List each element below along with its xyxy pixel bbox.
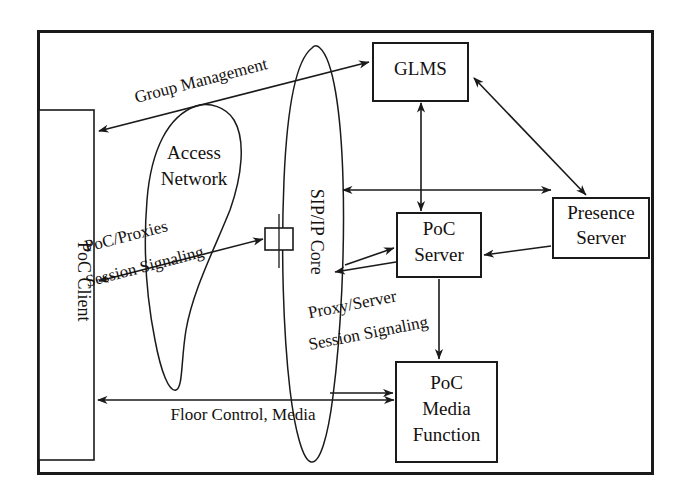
- proxy-poc-server-return-arrow: [335, 262, 396, 272]
- poc-media-function-box[interactable]: [396, 362, 497, 462]
- access-network-ellipse[interactable]: [145, 105, 241, 390]
- poc-server-box[interactable]: [397, 213, 481, 277]
- glms-presence-arrow: [474, 78, 586, 195]
- diagram-canvas: PoC Client Access Network SIP/IP Core GL…: [0, 0, 686, 504]
- diagram-graphics: [0, 0, 686, 504]
- poc-client-box[interactable]: [39, 110, 94, 460]
- presence-poc-server-arrow: [484, 246, 551, 255]
- glms-box[interactable]: [373, 43, 468, 101]
- presence-server-box[interactable]: [553, 198, 649, 258]
- poc-proxies-signaling-arrow: [99, 239, 263, 281]
- proxy-poc-server-arrow: [345, 248, 394, 265]
